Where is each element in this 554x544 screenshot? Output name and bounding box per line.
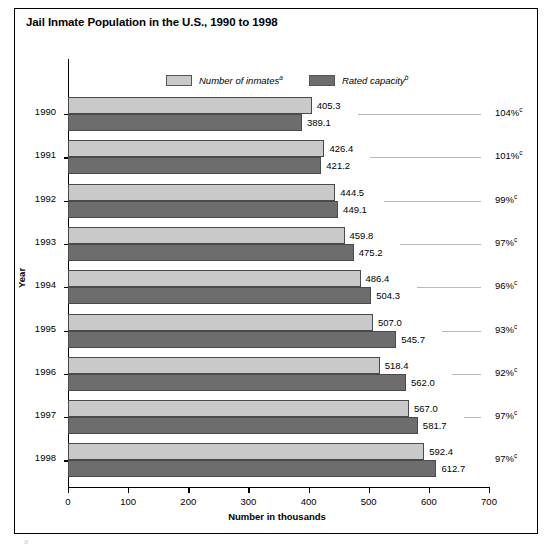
x-tick-400 [309,487,310,493]
y-tick-label-1996: 1996 [16,366,56,377]
x-tick-label-200: 200 [168,496,208,507]
y-tick-1992 [64,201,68,202]
y-tick-label-1994: 1994 [16,279,56,290]
value-label-inmates-1993: 459.8 [345,227,374,244]
percent-label-1998: 97%c [495,452,517,464]
value-label-capacity-1997: 581.7 [418,417,447,434]
x-tick-100 [128,487,129,493]
value-label-inmates-1998: 592.4 [424,443,453,460]
value-label-inmates-1997: 567.0 [409,400,438,417]
y-tick-label-1992: 1992 [16,193,56,204]
y-tick-label-1993: 1993 [16,236,56,247]
bar-inmates-1992 [68,184,335,201]
value-label-inmates-1994: 486.4 [361,270,390,287]
x-tick-700 [489,487,490,493]
percent-label-1996: 92%c [495,366,517,378]
percent-label-1990: 104%c [495,106,523,118]
leader-line-1997 [464,417,481,418]
x-tick-500 [369,487,370,493]
value-label-inmates-1991: 426.4 [324,140,353,157]
bar-capacity-1997 [68,417,418,434]
bar-inmates-1990 [68,97,312,114]
chart-figure: Jail Inmate Population in the U.S., 1990… [0,0,554,544]
chart-legend: Number of inmatesa Rated capacityb [166,74,408,86]
y-tick-1995 [64,331,68,332]
x-tick-label-600: 600 [409,496,449,507]
bar-capacity-1991 [68,157,321,174]
value-label-inmates-1996: 518.4 [380,357,409,374]
x-axis-label: Number in thousands [0,511,554,522]
value-label-inmates-1992: 444.5 [335,184,364,201]
percent-label-1995: 93%c [495,323,517,335]
bar-capacity-1992 [68,201,338,218]
y-tick-label-1991: 1991 [16,149,56,160]
value-label-inmates-1995: 507.0 [373,314,402,331]
bar-inmates-1994 [68,270,361,287]
leader-line-1991 [370,157,481,158]
x-tick-label-400: 400 [289,496,329,507]
value-label-capacity-1991: 421.2 [321,157,350,174]
y-tick-1996 [64,374,68,375]
x-tick-label-0: 0 [48,496,88,507]
legend-item-capacity: Rated capacityb [309,74,408,86]
percent-label-1991: 101%c [495,149,523,161]
x-axis-line [68,487,489,488]
value-label-capacity-1998: 612.7 [436,460,465,477]
bar-inmates-1996 [68,357,380,374]
bar-capacity-1990 [68,114,302,131]
chart-title: Jail Inmate Population in the U.S., 1990… [26,16,277,28]
percent-label-1992: 99%c [495,193,517,205]
leader-line-1994 [417,287,481,288]
x-tick-label-300: 300 [228,496,268,507]
legend-label-capacity: Rated capacityb [342,74,408,86]
y-tick-1991 [64,157,68,158]
footnote-partial: a [24,537,28,544]
x-tick-200 [188,487,189,493]
bar-capacity-1998 [68,460,436,477]
bar-inmates-1991 [68,140,324,157]
x-tick-label-700: 700 [469,496,509,507]
percent-label-1993: 97%c [495,236,517,248]
leader-line-1992 [384,201,481,202]
bar-capacity-1995 [68,331,396,348]
y-tick-label-1998: 1998 [16,452,56,463]
percent-label-1994: 96%c [495,279,517,291]
value-label-capacity-1993: 475.2 [354,244,383,261]
y-tick-1998 [64,460,68,461]
legend-item-inmates: Number of inmatesa [166,74,283,86]
legend-swatch-capacity [309,75,335,86]
leader-line-1990 [358,114,481,115]
y-tick-1993 [64,244,68,245]
y-tick-1997 [64,417,68,418]
y-tick-1994 [64,287,68,288]
bar-inmates-1993 [68,227,345,244]
value-label-inmates-1990: 405.3 [312,97,341,114]
bar-inmates-1998 [68,443,424,460]
percent-label-1997: 97%c [495,409,517,421]
x-tick-600 [429,487,430,493]
y-tick-label-1995: 1995 [16,323,56,334]
leader-line-1996 [452,374,481,375]
bar-inmates-1997 [68,400,409,417]
value-label-capacity-1996: 562.0 [406,374,435,391]
value-label-capacity-1990: 389.1 [302,114,331,131]
y-tick-label-1997: 1997 [16,409,56,420]
x-tick-label-100: 100 [108,496,148,507]
leader-line-1993 [400,244,481,245]
x-tick-300 [248,487,249,493]
value-label-capacity-1995: 545.7 [396,331,425,348]
legend-label-inmates: Number of inmatesa [199,74,283,86]
bar-capacity-1994 [68,287,371,304]
legend-swatch-inmates [166,75,192,86]
value-label-capacity-1994: 504.3 [371,287,400,304]
y-tick-1990 [64,114,68,115]
bar-capacity-1993 [68,244,354,261]
leader-line-1995 [442,331,481,332]
x-tick-label-500: 500 [349,496,389,507]
bar-capacity-1996 [68,374,406,391]
x-tick-0 [68,487,69,493]
bar-inmates-1995 [68,314,373,331]
value-label-capacity-1992: 449.1 [338,201,367,218]
y-tick-label-1990: 1990 [16,106,56,117]
